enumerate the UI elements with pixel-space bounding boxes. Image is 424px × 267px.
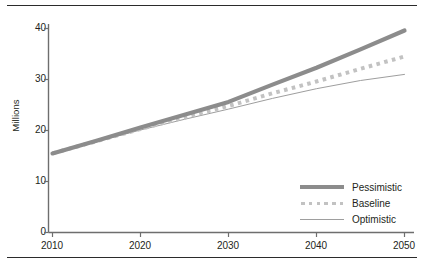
legend-swatch-optimistic-icon xyxy=(300,213,344,225)
series-lines xyxy=(53,31,405,154)
series-line-optimistic xyxy=(53,74,405,153)
legend-item-optimistic: Optimistic xyxy=(300,211,402,227)
legend-label-optimistic: Optimistic xyxy=(352,214,396,225)
legend-swatch-pessimistic-icon xyxy=(300,181,344,193)
legend-label-baseline: Baseline xyxy=(352,198,390,209)
legend-item-pessimistic: Pessimistic xyxy=(300,179,402,195)
legend-swatch-baseline-icon xyxy=(300,197,344,209)
chart-figure: Millions 40 30 20 10 0 2010 2020 2030 20… xyxy=(0,0,424,267)
legend-label-pessimistic: Pessimistic xyxy=(352,182,402,193)
series-line-pessimistic xyxy=(53,31,405,154)
legend-item-baseline: Baseline xyxy=(300,195,402,211)
chart-legend: Pessimistic Baseline Optimistic xyxy=(300,179,402,227)
